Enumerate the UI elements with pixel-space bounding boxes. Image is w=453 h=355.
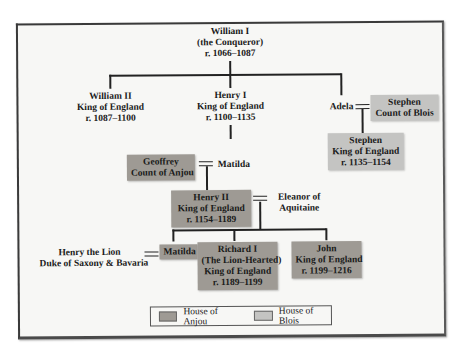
connector xyxy=(172,229,174,241)
reign: r. 1100–1135 xyxy=(194,112,268,124)
title: (the Conqueror) xyxy=(190,37,270,49)
blois-swatch-icon xyxy=(254,311,273,321)
node-john: John King of England r. 1199–1216 xyxy=(291,241,361,278)
name: Geoffrey xyxy=(131,156,191,167)
title: King of England xyxy=(175,203,247,215)
title: Aquitaine xyxy=(271,202,327,213)
connector xyxy=(340,73,342,95)
node-william-ii: William II King of England r. 1087–1100 xyxy=(74,91,146,125)
name: Henry I xyxy=(193,90,267,102)
node-stephen-count-of-blois: Stephen Count of Blois xyxy=(370,95,438,121)
legend: House of Anjou House of Blois xyxy=(150,305,332,326)
name: Matilda xyxy=(163,246,193,257)
reign: r. 1189–1199 xyxy=(202,277,274,289)
name: Matilda xyxy=(217,159,251,170)
connector xyxy=(109,73,341,76)
epithet: (The Lion-Hearted) xyxy=(202,255,274,267)
connector xyxy=(229,61,231,75)
node-stephen-king: Stephen King of England r. 1135–1154 xyxy=(328,133,404,171)
name: Henry II xyxy=(175,192,247,204)
connector xyxy=(206,166,208,190)
connector xyxy=(259,202,261,230)
name: Stephen xyxy=(332,135,400,146)
name: Stephen xyxy=(374,97,434,108)
reign: r. 1199–1216 xyxy=(296,265,358,276)
connector xyxy=(325,228,327,240)
node-matilda-empress: Matilda xyxy=(217,159,251,170)
family-tree-page: William I (the Conqueror) r. 1066–1087 W… xyxy=(16,21,446,340)
connector xyxy=(362,109,364,133)
marriage-symbol xyxy=(253,196,267,201)
title: King of England xyxy=(193,101,267,113)
anjou-swatch-icon xyxy=(159,311,178,321)
node-adela: Adela xyxy=(326,101,356,112)
reign: r. 1087–1100 xyxy=(75,113,147,125)
node-henry-ii: Henry II King of England r. 1154–1189 xyxy=(171,190,251,228)
node-henry-the-lion: Henry the Lion Duke of Saxony & Bavaria xyxy=(39,247,139,270)
title: Count of Blois xyxy=(375,108,435,119)
name: Adela xyxy=(326,101,356,112)
title: King of England xyxy=(202,266,274,278)
node-geoffrey-count-of-anjou: Geoffrey Count of Anjou xyxy=(127,154,195,180)
title: King of England xyxy=(74,102,146,114)
name: Henry the Lion xyxy=(39,247,139,259)
name: John xyxy=(295,243,357,254)
connector xyxy=(172,228,326,231)
connector xyxy=(233,229,235,241)
name: Eleanor of xyxy=(271,191,327,202)
name: Richard I xyxy=(201,244,273,256)
title: Duke of Saxony & Bavaria xyxy=(40,258,140,270)
reign: r. 1066–1087 xyxy=(190,48,270,60)
legend-blois-label: House of Blois xyxy=(279,305,331,325)
legend-anjou-label: House of Anjou xyxy=(183,306,238,326)
reign: r. 1135–1154 xyxy=(332,157,400,168)
marriage-symbol xyxy=(144,252,158,257)
connector xyxy=(109,75,111,89)
reign: r. 1154–1189 xyxy=(175,214,247,226)
node-william-i: William I (the Conqueror) r. 1066–1087 xyxy=(190,26,270,60)
node-richard-i: Richard I (The Lion-Hearted) King of Eng… xyxy=(197,242,277,291)
connector xyxy=(229,74,231,88)
node-matilda-daughter: Matilda xyxy=(159,244,197,259)
name: William I xyxy=(190,26,270,38)
title: King of England xyxy=(296,254,358,265)
name: William II xyxy=(74,91,146,103)
title: Count of Anjou xyxy=(131,167,191,178)
title: King of England xyxy=(332,146,400,157)
node-eleanor-of-aquitaine: Eleanor of Aquitaine xyxy=(271,191,327,213)
node-henry-i: Henry I King of England r. 1100–1135 xyxy=(193,90,267,124)
connector xyxy=(230,125,232,139)
